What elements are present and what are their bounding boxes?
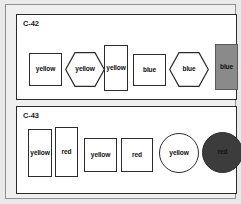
shape-label: yellow — [169, 150, 188, 157]
shape-label: blue — [143, 67, 156, 74]
shape-rect-yellow-1[interactable]: yellow — [29, 53, 62, 86]
shape-label: yellow — [106, 65, 125, 72]
shape-circle-red-filled[interactable]: red — [202, 132, 241, 173]
shape-label: blue — [183, 66, 196, 73]
shape-rect-blue-1[interactable]: blue — [133, 54, 166, 86]
shape-hex-blue-1[interactable]: blue — [169, 52, 209, 87]
shape-label: red — [132, 152, 142, 159]
shape-rect-yellow-3[interactable]: yellow — [28, 129, 52, 177]
outer-frame: C-42 yellow yellow yellow blue blue — [5, 4, 236, 199]
shape-rect-red-1[interactable]: red — [55, 127, 78, 177]
panel-c42-label: C-42 — [23, 19, 39, 28]
panel-c43-label: C-43 — [23, 111, 39, 120]
shape-circle-yellow-1[interactable]: yellow — [159, 133, 199, 173]
panel-c43[interactable]: C-43 yellow red yellow red yellow red — [16, 106, 237, 194]
shape-rect-blue-filled[interactable]: blue — [215, 44, 238, 90]
shape-label: yellow — [36, 66, 55, 73]
shape-hex-yellow-1[interactable]: yellow — [65, 52, 105, 87]
shape-label: red — [218, 149, 228, 156]
screenshot-canvas: C-42 yellow yellow yellow blue blue — [0, 0, 241, 204]
shape-rect-yellow-4[interactable]: yellow — [84, 138, 117, 172]
shape-rect-yellow-2[interactable]: yellow — [104, 45, 128, 91]
shape-label: yellow — [75, 66, 94, 73]
shape-label: yellow — [91, 152, 110, 159]
shape-label: yellow — [30, 150, 49, 157]
shape-label: red — [62, 149, 72, 156]
shape-rect-red-2[interactable]: red — [121, 138, 153, 172]
panel-c42[interactable]: C-42 yellow yellow yellow blue blue — [16, 14, 237, 100]
shape-label: blue — [220, 64, 233, 71]
